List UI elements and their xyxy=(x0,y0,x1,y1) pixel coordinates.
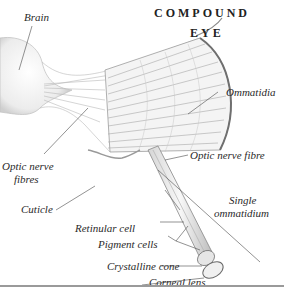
label-cuticle: Cuticle xyxy=(21,203,53,215)
label-single-ommatidium-1: Single xyxy=(229,194,257,206)
label-pigment-cells: Pigment cells xyxy=(98,238,158,250)
bottom-rule xyxy=(0,285,284,287)
title-line-1: COMPOUND xyxy=(154,6,250,21)
label-optic-nerve-fibres-1: Optic nerve xyxy=(2,160,54,172)
label-retinular-cell: Retinular cell xyxy=(75,222,135,234)
brain-shape xyxy=(0,37,72,114)
label-crystalline-cone: Crystalline cone xyxy=(107,260,179,272)
label-single-ommatidium-2: ommatidium xyxy=(214,207,269,219)
label-ommatidia: Ommatidia xyxy=(226,86,276,98)
label-optic-nerve-fibres-2: fibres xyxy=(14,173,39,185)
label-brain: Brain xyxy=(24,11,49,23)
label-optic-nerve-fibre: Optic nerve fibre xyxy=(190,149,265,161)
title-line-2: EYE xyxy=(190,26,224,41)
